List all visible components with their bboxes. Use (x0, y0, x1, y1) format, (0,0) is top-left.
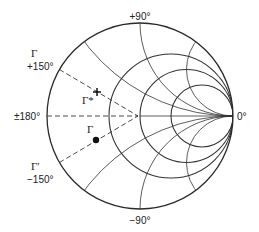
reactance-arc (187, 116, 259, 209)
symbol-label-gamma-prime: Γ′ (31, 160, 40, 172)
angle-label-upper-left: +150° (27, 61, 54, 72)
reactance-arc (140, 116, 258, 232)
smith-chart: +90°−90°0°±180°+150°−150°ΓΓ′Γ*Γ (0, 0, 258, 232)
gamma-star-point (93, 88, 101, 96)
angle-dashed-lines (47, 70, 138, 163)
angle-label-left: ±180° (14, 111, 40, 122)
symbol-label-gamma-upper: Γ (31, 47, 37, 59)
gamma-dot-point (93, 137, 99, 143)
angle-label-bottom: −90° (130, 215, 151, 226)
symbol-label-gamma-star: Γ* (82, 94, 94, 106)
reactance-arc (187, 23, 259, 116)
symbol-label-gamma-point: Γ (87, 123, 93, 135)
reactance-arc (47, 116, 258, 232)
angle-label-top: +90° (130, 11, 151, 22)
reactance-arc (140, 0, 258, 116)
angle-label-right: 0° (237, 111, 247, 122)
angle-label-lower-left: −150° (27, 174, 54, 185)
reactance-arc (47, 0, 258, 116)
